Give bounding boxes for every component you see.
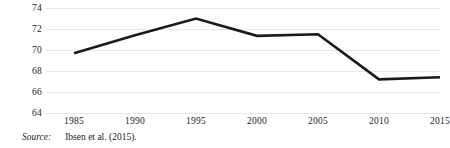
x-tick-label-2000: 2000 xyxy=(247,115,267,127)
line-series-path xyxy=(74,19,440,80)
y-tick-label-68: 68 xyxy=(16,66,42,76)
y-tick-label-74: 74 xyxy=(16,3,42,13)
x-tick-label-2015: 2015 xyxy=(430,115,450,127)
plot-area xyxy=(46,8,440,113)
x-tick-label-2005: 2005 xyxy=(308,115,328,127)
source-citation-text: Ibsen et al. (2015). xyxy=(65,132,137,142)
source-note: Source:Ibsen et al. (2015). xyxy=(22,130,442,144)
x-axis-tick-labels: 1985199019952000200520102015 xyxy=(46,115,440,129)
line-series-layer xyxy=(46,8,440,113)
y-tick-label-70: 70 xyxy=(16,45,42,55)
x-tick-label-1995: 1995 xyxy=(186,115,206,127)
x-tick-label-1985: 1985 xyxy=(64,115,84,127)
y-axis-tick-labels: 646668707274 xyxy=(14,8,42,113)
x-tick-label-2010: 2010 xyxy=(369,115,389,127)
y-tick-label-72: 72 xyxy=(16,24,42,34)
y-tick-label-66: 66 xyxy=(16,87,42,97)
source-label: Source: xyxy=(22,132,51,142)
y-tick-label-64: 64 xyxy=(16,108,42,118)
x-tick-label-1990: 1990 xyxy=(125,115,145,127)
